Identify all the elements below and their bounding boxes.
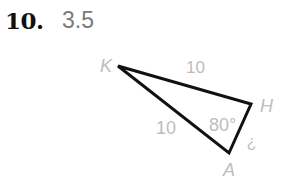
vertex-label-a: A <box>222 160 235 180</box>
angle-label-a: 80° <box>209 115 236 135</box>
triangle-kha <box>118 66 251 153</box>
vertex-label-h: H <box>260 96 274 116</box>
side-label-kh: 10 <box>186 58 205 77</box>
triangle-figure: K H A 10 10 80° ? <box>0 0 300 188</box>
side-label-ha: ? <box>247 135 256 152</box>
side-label-ka: 10 <box>156 118 176 138</box>
vertex-label-k: K <box>100 56 113 76</box>
